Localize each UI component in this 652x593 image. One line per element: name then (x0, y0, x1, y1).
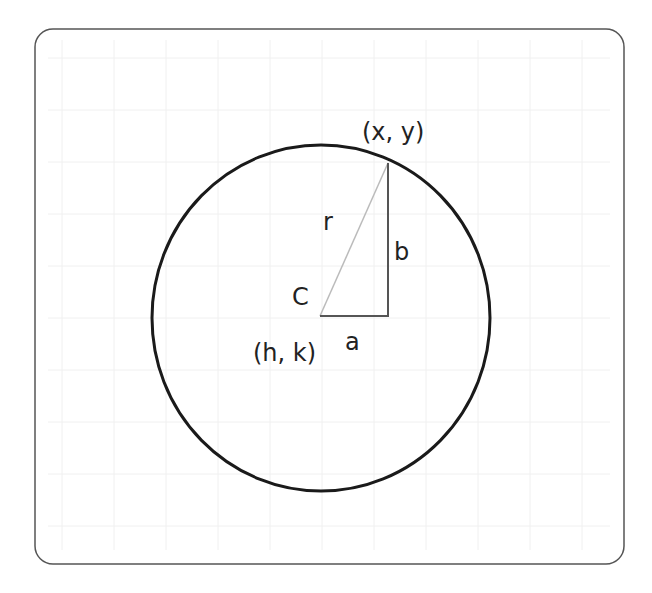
center-coords-label: (h, k) (253, 339, 316, 367)
point-label: (x, y) (362, 118, 424, 146)
radius-line (320, 163, 388, 316)
frame (35, 29, 624, 564)
horizontal-leg-label: a (345, 328, 360, 356)
center-letter-label: C (292, 283, 309, 311)
circle-diagram: (x, y) r b C (h, k) a (0, 0, 652, 593)
vertical-leg-label: b (394, 238, 409, 266)
radius-label: r (323, 208, 333, 236)
